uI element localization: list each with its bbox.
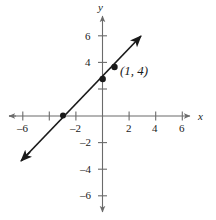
y-tick-label-6: 6 — [85, 31, 91, 42]
x-tick-label-4: 4 — [152, 123, 158, 134]
x-axis — [9, 112, 190, 121]
x-tick-label-neg-2: –2 — [70, 123, 81, 134]
y-axis-label: y — [98, 2, 103, 13]
line-lower-arrow — [21, 152, 30, 161]
y-axis — [98, 16, 107, 212]
y-tick-label-neg-2: –2 — [80, 137, 91, 148]
point-y-intercept — [100, 76, 106, 82]
x-tick-label-2: 2 — [126, 123, 132, 134]
x-tick-label-neg-6: –6 — [17, 123, 28, 134]
y-tick-label-neg-4: –4 — [80, 164, 91, 175]
graph-figure: x y –6 –2 2 4 6 6 4 –2 –4 –6 (1, 4) — [0, 0, 216, 220]
x-axis-label: x — [198, 111, 203, 122]
coordinate-plane-svg — [0, 0, 216, 220]
x-tick-label-6: 6 — [179, 123, 185, 134]
y-tick-label-neg-6: –6 — [80, 190, 91, 201]
point-one-four — [111, 64, 117, 70]
y-tick-label-4: 4 — [85, 57, 91, 68]
point-x-intercept — [60, 113, 66, 119]
point-annotation-label: (1, 4) — [120, 64, 148, 77]
